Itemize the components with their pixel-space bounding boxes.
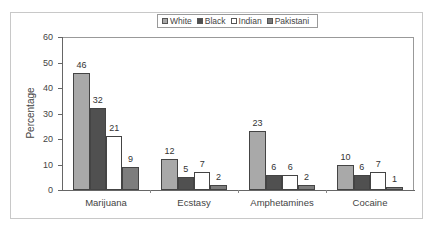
- bar-value-label: 9: [120, 154, 140, 164]
- bar-pakistani-ecstasy: [210, 185, 226, 190]
- bar-value-label: 21: [104, 123, 124, 133]
- y-tick: [58, 88, 62, 89]
- bar-pakistani-amphetamines: [298, 185, 314, 190]
- bar-pakistani-marijuana: [122, 167, 138, 190]
- y-tick-label: 10: [43, 160, 53, 170]
- bar-value-label: 23: [248, 118, 268, 128]
- y-tick-label: 60: [43, 32, 53, 42]
- legend-label: Black: [205, 16, 226, 26]
- y-tick: [58, 165, 62, 166]
- x-tick: [326, 190, 327, 193]
- bar-black-cocaine: [354, 175, 370, 190]
- y-tick-label: 30: [43, 109, 53, 119]
- bar-black-ecstasy: [178, 177, 194, 190]
- bar-value-label: 12: [160, 146, 180, 156]
- bar-value-label: 46: [72, 60, 92, 70]
- x-category-label: Amphetamines: [250, 197, 313, 208]
- bar-value-label: 6: [280, 162, 300, 172]
- y-tick-label: 40: [43, 83, 53, 93]
- legend-swatch: [231, 18, 237, 24]
- legend-swatch: [197, 18, 203, 24]
- y-tick: [58, 63, 62, 64]
- bar-value-label: 32: [88, 95, 108, 105]
- legend-item: Black: [197, 16, 226, 26]
- x-tick: [150, 190, 151, 193]
- y-tick: [58, 37, 62, 38]
- bar-pakistani-cocaine: [386, 187, 402, 190]
- legend: WhiteBlackIndianPakistani: [157, 14, 318, 28]
- legend-swatch: [267, 18, 273, 24]
- bar-value-label: 2: [208, 172, 228, 182]
- bar-value-label: 1: [384, 174, 404, 184]
- bar-white-amphetamines: [249, 131, 265, 190]
- x-category-label: Ecstasy: [177, 197, 210, 208]
- y-tick: [58, 190, 62, 191]
- legend-swatch: [162, 18, 168, 24]
- legend-item: Pakistani: [267, 16, 310, 26]
- legend-item: Indian: [231, 16, 262, 26]
- bar-value-label: 2: [296, 172, 316, 182]
- bar-black-amphetamines: [266, 175, 282, 190]
- bar-value-label: 10: [336, 152, 356, 162]
- y-tick: [58, 139, 62, 140]
- legend-label: Pakistani: [275, 16, 310, 26]
- legend-item: White: [162, 16, 192, 26]
- legend-label: White: [170, 16, 192, 26]
- y-tick-label: 0: [48, 185, 53, 195]
- legend-label: Indian: [239, 16, 262, 26]
- y-tick: [58, 114, 62, 115]
- x-tick: [238, 190, 239, 193]
- y-tick-label: 20: [43, 134, 53, 144]
- bar-value-label: 7: [368, 159, 388, 169]
- y-axis-title: Percentage: [25, 87, 36, 138]
- bar-value-label: 7: [192, 159, 212, 169]
- x-category-label: Marijuana: [85, 197, 127, 208]
- bar-white-marijuana: [73, 73, 89, 190]
- y-axis: [62, 37, 63, 191]
- x-category-label: Cocaine: [353, 197, 388, 208]
- bar-black-marijuana: [90, 108, 106, 190]
- y-tick-label: 50: [43, 58, 53, 68]
